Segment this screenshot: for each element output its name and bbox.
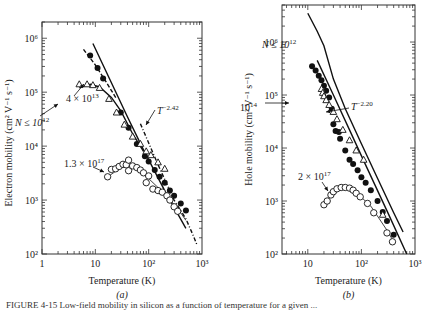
data-point-filled-circle xyxy=(100,75,106,81)
y-tick-label: 10⁴ xyxy=(25,141,39,152)
arrowhead-icon xyxy=(285,101,289,105)
annotation-label: 2 × 1017 xyxy=(298,170,331,182)
data-point-filled-circle xyxy=(330,121,336,127)
x-tick-label: 10³ xyxy=(409,258,422,269)
data-point-filled-circle xyxy=(337,136,343,142)
panel-b-hole-mobility: 1010²10³10²10³10⁴10⁵10⁶Temperature (K)(b… xyxy=(240,5,422,301)
annotation-label: T−2.42 xyxy=(157,104,179,116)
data-point-open-circle xyxy=(125,157,131,163)
panel-label: (b) xyxy=(343,289,355,301)
data-point-open-triangle xyxy=(96,84,103,90)
annotation-label: 1.3 × 1017 xyxy=(64,157,105,169)
x-tick-label: 10³ xyxy=(196,258,209,269)
y-axis-label: Hole mobility (cm² V⁻¹ s⁻¹) xyxy=(243,73,255,186)
data-point-open-circle xyxy=(167,197,173,203)
data-point-filled-circle xyxy=(313,68,319,74)
x-tick-label: 1 xyxy=(40,258,45,269)
data-point-open-triangle xyxy=(346,137,353,143)
data-point-filled-circle xyxy=(350,161,356,167)
data-point-filled-circle xyxy=(152,167,158,173)
x-tick-label: 10² xyxy=(355,258,368,269)
x-tick-label: 10² xyxy=(142,258,155,269)
data-point-filled-circle xyxy=(355,167,361,173)
annotation-label: N ≤ 1012 xyxy=(261,38,297,50)
data-point-filled-circle xyxy=(178,201,184,207)
arrowhead-icon xyxy=(54,104,58,108)
panel-a-electron-mobility: 11010²10³10²10³10⁴10⁵10⁶Temperature (K)(… xyxy=(3,22,209,301)
data-point-filled-circle xyxy=(162,180,168,186)
data-point-filled-circle xyxy=(363,180,369,186)
annotation-label: N ≤ 1012 xyxy=(14,116,50,128)
data-point-open-circle xyxy=(143,179,149,185)
data-point-open-triangle xyxy=(84,81,91,87)
arrowhead-icon xyxy=(326,109,330,113)
data-point-open-circle xyxy=(371,210,377,216)
data-point-open-circle xyxy=(357,194,363,200)
data-point-filled-circle xyxy=(368,187,374,193)
y-tick-label: 10³ xyxy=(265,196,278,207)
data-point-filled-circle xyxy=(391,232,397,238)
x-tick-label: 10 xyxy=(303,258,313,269)
y-tick-label: 10⁴ xyxy=(265,143,279,154)
data-point-filled-circle xyxy=(146,158,152,164)
figure-caption: FIGURE 4-15 Low-field mobility in silico… xyxy=(6,300,317,310)
data-point-open-circle xyxy=(104,174,110,180)
data-point-open-circle xyxy=(384,230,390,236)
y-axis-label: Electron mobility (cm² V⁻¹ s⁻¹) xyxy=(3,79,15,206)
data-point-filled-circle xyxy=(183,208,189,214)
y-tick-label: 10⁶ xyxy=(25,33,39,44)
y-tick-label: 10⁵ xyxy=(25,87,39,98)
annotation-label: 1014 xyxy=(240,101,258,113)
data-point-filled-circle xyxy=(157,174,163,180)
data-point-filled-circle xyxy=(95,65,101,71)
y-tick-label: 10⁵ xyxy=(265,90,279,101)
arrowhead-icon xyxy=(324,187,328,191)
data-point-open-circle xyxy=(174,208,180,214)
x-tick-label: 10 xyxy=(90,258,100,269)
data-point-filled-circle xyxy=(87,52,93,58)
x-axis-label: Temperature (K) xyxy=(89,275,156,287)
data-point-open-triangle xyxy=(340,126,347,132)
y-tick-label: 10² xyxy=(265,249,278,260)
y-tick-label: 10³ xyxy=(25,195,38,206)
data-point-filled-circle xyxy=(358,174,364,180)
x-axis-label: Temperature (K) xyxy=(315,275,382,287)
data-point-filled-circle xyxy=(375,198,381,204)
data-point-filled-circle xyxy=(318,77,324,83)
data-point-open-triangle xyxy=(334,116,341,122)
data-point-open-circle xyxy=(389,239,395,245)
data-point-open-circle xyxy=(364,200,370,206)
data-point-filled-circle xyxy=(342,147,348,153)
annotation-label: T−2.20 xyxy=(351,100,373,112)
data-point-open-triangle xyxy=(161,165,168,171)
annotation-label: 4 × 1013 xyxy=(66,92,99,104)
fit-curve xyxy=(317,60,407,254)
data-point-filled-circle xyxy=(384,218,390,224)
data-point-open-circle xyxy=(324,198,330,204)
y-tick-label: 10² xyxy=(25,249,38,260)
data-point-open-circle xyxy=(145,173,151,179)
fit-curve xyxy=(308,13,403,232)
plot-frame xyxy=(42,22,202,254)
